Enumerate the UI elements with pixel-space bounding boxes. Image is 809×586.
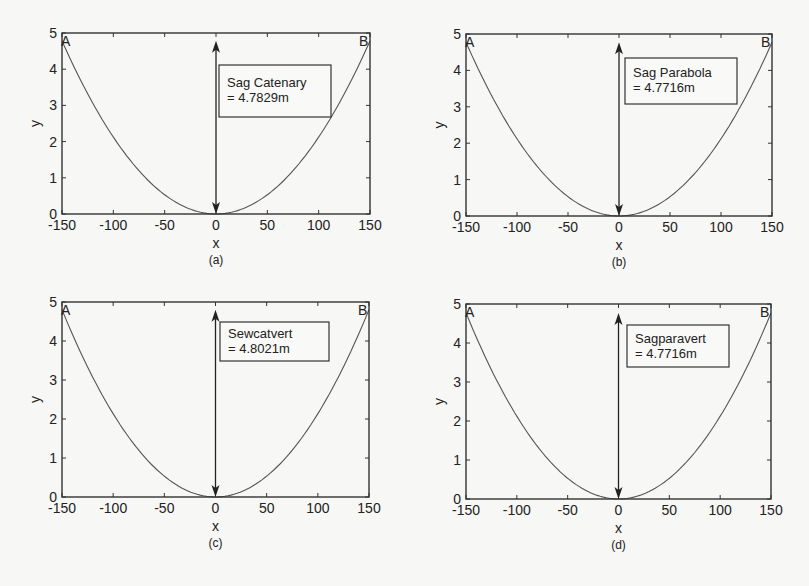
y-tick-label: 3	[49, 97, 57, 113]
figure-canvas: -150-100-50050100150012345xy(a)ABSag Cat…	[0, 0, 809, 586]
x-tick-label: -100	[99, 500, 127, 516]
x-tick-label: 100	[307, 217, 331, 233]
annotation-title: Sag Parabola	[633, 65, 713, 80]
y-tick-label: 1	[49, 450, 57, 466]
x-tick-label: 150	[358, 217, 382, 233]
chart-panel-a: -150-100-50050100150012345xy(a)ABSag Cat…	[27, 25, 382, 267]
chart-panel-c: -150-100-50050100150012345xy(c)ABSewcatv…	[27, 294, 381, 550]
y-axis-label: y	[431, 122, 447, 129]
x-tick-label: -50	[155, 217, 175, 233]
y-tick-label: 0	[49, 206, 57, 222]
x-tick-label: -100	[99, 217, 127, 233]
x-tick-label: 150	[759, 502, 783, 518]
figure: -150-100-50050100150012345xy(a)ABSag Cat…	[0, 0, 809, 586]
x-axis-label: x	[616, 237, 623, 253]
x-axis-label: x	[212, 518, 219, 534]
x-tick-label: 50	[662, 502, 678, 518]
point-label-a: A	[465, 304, 475, 320]
y-tick-label: 2	[49, 134, 57, 150]
y-tick-label: 2	[453, 413, 461, 429]
point-label-a: A	[465, 34, 475, 50]
x-tick-label: -50	[558, 502, 578, 518]
annotation-title: Sagparavert	[635, 331, 706, 346]
point-label-b: B	[761, 34, 770, 50]
x-tick-label: -100	[503, 219, 531, 235]
x-tick-label: 0	[615, 502, 623, 518]
chart-panel-b: -150-100-50050100150012345xy(b)ABSag Par…	[431, 26, 784, 269]
y-axis-label: y	[431, 398, 447, 405]
y-tick-label: 5	[49, 25, 57, 41]
x-tick-label: 50	[662, 219, 678, 235]
y-axis-label: y	[27, 120, 43, 127]
x-tick-label: 50	[260, 217, 276, 233]
annotation-value: = 4.8021m	[228, 341, 290, 356]
y-tick-label: 3	[49, 372, 57, 388]
y-tick-label: 5	[49, 294, 57, 310]
x-tick-label: 0	[615, 219, 623, 235]
y-tick-label: 1	[49, 170, 57, 186]
x-tick-label: -50	[154, 500, 174, 516]
y-tick-label: 0	[453, 208, 461, 224]
x-tick-label: 0	[212, 500, 220, 516]
y-tick-label: 1	[453, 452, 461, 468]
y-tick-label: 0	[453, 491, 461, 507]
y-tick-label: 2	[49, 411, 57, 427]
point-label-a: A	[61, 302, 71, 318]
x-axis-label: x	[213, 235, 220, 251]
x-tick-label: 100	[708, 502, 732, 518]
y-tick-label: 3	[453, 374, 461, 390]
panel-caption: (b)	[612, 255, 627, 269]
x-tick-label: 100	[709, 219, 733, 235]
point-label-a: A	[61, 33, 71, 49]
x-axis-label: x	[615, 520, 622, 536]
panel-caption: (d)	[611, 538, 626, 552]
y-tick-label: 5	[453, 296, 461, 312]
x-tick-label: 150	[357, 500, 381, 516]
y-tick-label: 0	[49, 489, 57, 505]
point-label-b: B	[359, 33, 368, 49]
y-tick-label: 4	[453, 335, 461, 351]
panel-caption: (a)	[209, 253, 224, 267]
annotation-value: = 4.7716m	[635, 346, 697, 361]
x-tick-label: 100	[306, 500, 330, 516]
y-tick-label: 3	[453, 99, 461, 115]
x-tick-label: 150	[760, 219, 784, 235]
point-label-b: B	[760, 304, 769, 320]
x-tick-label: 50	[259, 500, 275, 516]
x-tick-label: -50	[558, 219, 578, 235]
point-label-b: B	[358, 302, 367, 318]
y-tick-label: 4	[453, 62, 461, 78]
annotation-value: = 4.7716m	[633, 80, 695, 95]
y-tick-label: 4	[49, 333, 57, 349]
x-tick-label: 0	[212, 217, 220, 233]
y-tick-label: 4	[49, 61, 57, 77]
annotation-value: = 4.7829m	[227, 90, 289, 105]
y-tick-label: 2	[453, 135, 461, 151]
y-tick-label: 1	[453, 172, 461, 188]
chart-panel-d: -150-100-50050100150012345xy(d)ABSagpara…	[431, 296, 783, 552]
y-tick-label: 5	[453, 26, 461, 42]
x-tick-label: -100	[503, 502, 531, 518]
annotation-title: Sewcatvert	[228, 326, 293, 341]
y-axis-label: y	[27, 396, 43, 403]
annotation-title: Sag Catenary	[227, 75, 307, 90]
panel-caption: (c)	[209, 536, 223, 550]
